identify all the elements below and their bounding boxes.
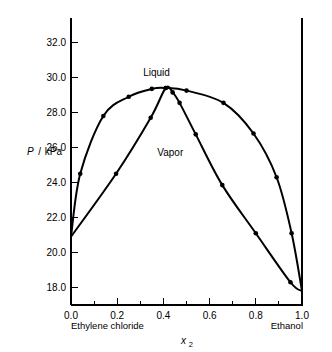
y-axis-title: P / kPa (27, 146, 62, 157)
y-tick-label-24.0: 24.0 (47, 177, 67, 188)
liquid-point (274, 175, 279, 180)
y-axis-symbol: P (27, 146, 34, 157)
y-axis-ticks (71, 43, 78, 288)
liquid-point (221, 101, 226, 106)
y-tick-label-22.0: 22.0 (47, 212, 67, 223)
vapor-point (193, 132, 198, 137)
x-tick-label-0.6: 0.6 (203, 310, 217, 321)
x-axis-title: x 2 (180, 335, 193, 349)
liquid-point (251, 131, 256, 136)
vapor-point (148, 115, 153, 120)
data-curves (71, 87, 302, 291)
liquid-point (150, 87, 155, 92)
y-axis-separator: / (38, 146, 41, 157)
x-axis-subscript: 2 (189, 340, 193, 349)
vapor-point (170, 90, 175, 95)
y-tick-label-32.0: 32.0 (47, 37, 67, 48)
x-axis-right-component-label: Ethanol (271, 320, 303, 331)
vapor-point (288, 280, 293, 285)
axis-frame (71, 18, 303, 305)
vapor-point (177, 101, 182, 106)
x-tick-label-0.4: 0.4 (156, 310, 170, 321)
vapor-point (114, 171, 119, 176)
y-tick-label-28.0: 28.0 (47, 107, 67, 118)
vapor-curve (71, 87, 302, 291)
vapor-point (163, 86, 168, 91)
vapor-region-label: Vapor (157, 147, 184, 158)
figure-container: 18.020.022.024.026.028.030.032.0 0.00.20… (0, 0, 332, 352)
liquid-point (78, 171, 83, 176)
liquid-point (184, 88, 189, 93)
y-tick-label-20.0: 20.0 (47, 247, 67, 258)
vapor-point (254, 231, 259, 236)
vapor-point (220, 183, 225, 188)
phase-diagram-chart: 18.020.022.024.026.028.030.032.0 0.00.20… (0, 0, 332, 352)
y-tick-label-30.0: 30.0 (47, 72, 67, 83)
liquid-region-label: Liquid (143, 67, 170, 78)
y-axis-tick-labels: 18.020.022.024.026.028.030.032.0 (47, 37, 67, 293)
y-axis-unit: kPa (45, 146, 63, 157)
liquid-point (289, 231, 294, 236)
vapor-data-points (114, 86, 293, 285)
x-axis-symbol: x (180, 335, 187, 346)
liquid-point (126, 94, 131, 99)
y-tick-label-18.0: 18.0 (47, 282, 67, 293)
x-tick-label-0.8: 0.8 (249, 310, 263, 321)
liquid-point (101, 114, 106, 119)
x-axis-left-component-label: Ethylene chloride (71, 320, 144, 331)
